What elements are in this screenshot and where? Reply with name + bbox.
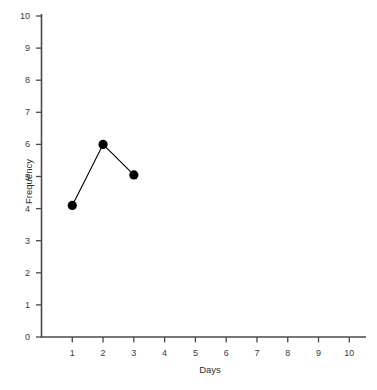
x-tick-label: 3 — [131, 349, 136, 358]
y-axis-title: Frequency — [23, 159, 34, 204]
y-tick-label: 10 — [8, 12, 30, 21]
x-tick-label: 6 — [224, 349, 229, 358]
y-tick-label: 8 — [8, 76, 30, 85]
line-chart: 012345678910 12345678910 Frequency Days — [0, 0, 377, 390]
x-axis-ticks — [72, 337, 349, 343]
y-axis-ticks — [36, 16, 42, 337]
x-tick-label: 9 — [316, 349, 321, 358]
data-point — [98, 140, 107, 149]
data-point — [129, 170, 138, 179]
x-tick-label: 4 — [162, 349, 167, 358]
data-markers — [68, 140, 139, 210]
plot-area — [0, 0, 377, 390]
y-tick-label: 2 — [8, 268, 30, 277]
x-axis-title: Days — [199, 364, 221, 375]
y-tick-label: 9 — [8, 44, 30, 53]
data-line — [72, 144, 134, 205]
x-tick-label: 1 — [70, 349, 75, 358]
y-tick-label: 4 — [8, 204, 30, 213]
y-tick-label: 0 — [8, 333, 30, 342]
x-tick-label: 7 — [254, 349, 259, 358]
x-tick-label: 2 — [101, 349, 106, 358]
x-tick-label: 8 — [285, 349, 290, 358]
y-tick-label: 6 — [8, 140, 30, 149]
x-tick-label: 5 — [193, 349, 198, 358]
data-point — [68, 201, 77, 210]
y-tick-label: 1 — [8, 300, 30, 309]
y-tick-label: 3 — [8, 236, 30, 245]
y-tick-label: 7 — [8, 108, 30, 117]
x-tick-label: 10 — [344, 349, 354, 358]
